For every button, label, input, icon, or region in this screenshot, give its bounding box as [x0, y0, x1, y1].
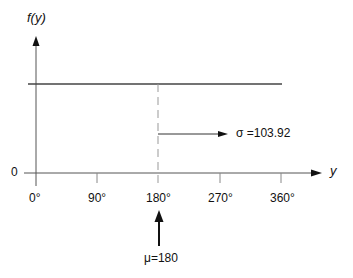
tick-label-180: 180°: [146, 191, 171, 205]
y-axis-arrow-icon: [33, 36, 40, 46]
y-axis-label: f(y): [27, 10, 46, 25]
x-axis-arrow-icon: [311, 170, 322, 177]
tick-label-0: 0°: [29, 191, 40, 205]
mu-arrow-icon: [155, 210, 164, 222]
tick-label-270: 270°: [208, 191, 233, 205]
uniform-distribution-diagram: [0, 0, 353, 278]
sigma-annotation: σ =103.92: [236, 126, 290, 140]
sigma-arrow-icon: [218, 131, 228, 137]
tick-label-90: 90°: [88, 191, 106, 205]
tick-label-360: 360°: [270, 191, 295, 205]
origin-label: 0: [11, 165, 18, 179]
mu-annotation: μ=180: [144, 251, 178, 265]
x-axis-label: y: [330, 163, 337, 178]
